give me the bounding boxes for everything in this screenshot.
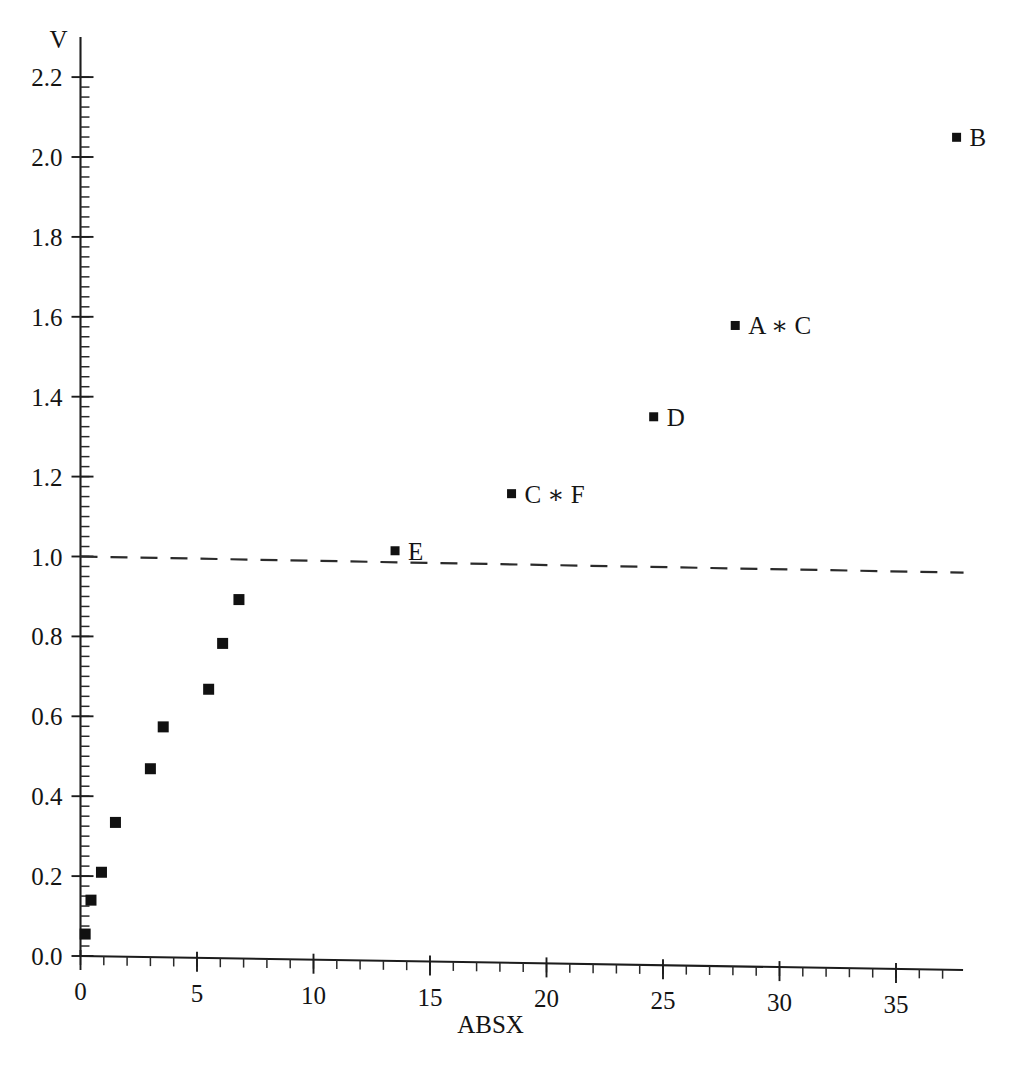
axes (81, 38, 963, 970)
x-axis-spine (81, 956, 963, 970)
y-tick-label: 0.6 (31, 703, 62, 730)
data-point-marker (507, 489, 516, 498)
x-tick-label: 30 (767, 989, 792, 1016)
reference-line-dashed (81, 557, 964, 573)
data-point-marker (203, 684, 214, 695)
y-tick-label: 2.0 (31, 144, 62, 171)
x-tick-label: 35 (884, 991, 909, 1018)
data-point-marker (96, 867, 107, 878)
x-tick-label: 20 (534, 985, 559, 1012)
data-point-marker (145, 763, 156, 774)
data-point-label: D (667, 404, 685, 431)
data-points (80, 133, 961, 940)
x-tick-label: 0 (74, 978, 87, 1005)
y-tick-label: 1.8 (31, 224, 62, 251)
data-point-marker (233, 594, 244, 605)
chart-page: 0.00.20.40.60.81.01.21.41.61.82.02.2V051… (0, 0, 1011, 1065)
scatter-plot: 0.00.20.40.60.81.01.21.41.61.82.02.2V051… (0, 0, 1011, 1065)
y-tick-label: 1.2 (31, 464, 62, 491)
y-tick-label: 0.0 (31, 943, 62, 970)
data-point-marker (80, 929, 91, 940)
reference-line (81, 557, 964, 573)
y-tick-label: 0.8 (31, 623, 62, 650)
data-point-label: E (408, 538, 423, 565)
data-point-marker (217, 638, 228, 649)
y-tick-label: 1.4 (31, 384, 63, 411)
data-point-marker (731, 321, 740, 330)
x-axis-title: ABSX (457, 1011, 524, 1038)
x-tick-label: 15 (418, 984, 443, 1011)
data-point-marker (952, 133, 961, 142)
y-tick-label: 0.4 (31, 783, 63, 810)
y-axis-title: V (49, 26, 67, 53)
y-tick-label: 1.0 (31, 544, 62, 571)
data-point-marker (158, 721, 169, 732)
data-point-label: C ∗ F (525, 481, 585, 508)
x-tick-label: 5 (191, 980, 204, 1007)
tick-labels: 0.00.20.40.60.81.01.21.41.61.82.02.2V051… (31, 26, 986, 1038)
x-tick-label: 10 (301, 982, 326, 1009)
y-tick-label: 1.6 (31, 304, 62, 331)
y-tick-label: 0.2 (31, 863, 62, 890)
x-tick-label: 25 (651, 987, 676, 1014)
data-point-marker (649, 412, 658, 421)
data-point-marker (391, 546, 400, 555)
data-point-marker (85, 895, 96, 906)
y-tick-label: 2.2 (31, 64, 62, 91)
data-point-label: B (970, 124, 987, 151)
data-point-label: A ∗ C (748, 312, 811, 339)
data-point-marker (110, 817, 121, 828)
axis-ticks (72, 77, 943, 983)
